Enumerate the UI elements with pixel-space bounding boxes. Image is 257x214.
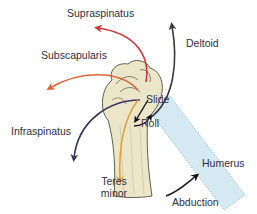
label-roll: Roll: [141, 117, 159, 129]
label-teres-minor: Teres minor: [98, 175, 130, 199]
label-deltoid: Deltoid: [186, 37, 219, 49]
label-subscapularis: Subscapularis: [41, 49, 107, 61]
abduction-arrow: [166, 176, 196, 196]
label-slide: Slide: [146, 93, 169, 105]
humerus-abducted-ghost: [150, 96, 245, 210]
label-supraspinatus: Supraspinatus: [67, 7, 134, 19]
label-infraspinatus: Infraspinatus: [11, 125, 71, 137]
label-humerus: Humerus: [202, 157, 245, 169]
label-teres-minor-line2: minor: [98, 187, 130, 199]
label-teres-minor-line1: Teres: [98, 175, 130, 187]
label-abduction: Abduction: [172, 196, 219, 208]
